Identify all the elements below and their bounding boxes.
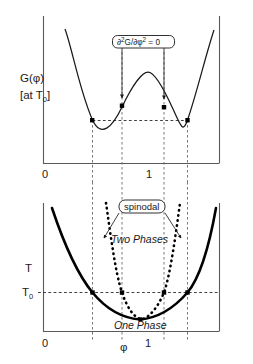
spinodal-callout-text: spinodal: [124, 201, 159, 212]
marker-spinodal-right: [162, 105, 166, 109]
free-energy-panel: ∂2G/∂φ2 = 0 G(φ) [at T0] 0 1: [20, 16, 220, 182]
t0-label-sub: 0: [29, 292, 33, 301]
phase-diagram-panel: spinodal Two Phases One Phase T T0 0 1 φ: [22, 182, 220, 353]
free-energy-ylabel-line1: G(φ): [20, 72, 44, 84]
marker-binodal-left: [90, 118, 94, 122]
marker-binodal-right-T0: [185, 290, 189, 294]
marker-spinodal-left: [120, 104, 124, 108]
marker-spinodal-right-T0: [162, 290, 166, 294]
free-energy-ylabel-line2: [at T0]: [20, 89, 50, 104]
phase-diagram-xtick-1: 1: [145, 337, 151, 349]
free-energy-ylabel-close: ]: [47, 89, 50, 101]
phase-separation-figure: ∂2G/∂φ2 = 0 G(φ) [at T0] 0 1: [0, 0, 253, 364]
binodal-curve: [52, 208, 216, 320]
free-energy-xtick-1: 1: [146, 168, 152, 180]
phase-diagram-xlabel: φ: [120, 341, 127, 353]
two-phases-label: Two Phases: [111, 233, 169, 245]
marker-spinodal-left-T0: [120, 290, 124, 294]
t0-label-T: T: [22, 286, 29, 298]
free-energy-ylabel-t: [at T: [20, 89, 43, 101]
marker-binodal-left-T0: [90, 290, 94, 294]
phase-diagram-ylabel: T: [25, 262, 32, 274]
phase-diagram-xtick-0: 0: [42, 337, 48, 349]
one-phase-label: One Phase: [114, 319, 167, 331]
spinodal-curve: [106, 203, 180, 320]
free-energy-xtick-0: 0: [42, 168, 48, 180]
figure-root: ∂2G/∂φ2 = 0 G(φ) [at T0] 0 1: [0, 0, 253, 364]
phase-diagram-ytick-T0: T0: [22, 286, 33, 301]
marker-binodal-right: [185, 118, 189, 122]
